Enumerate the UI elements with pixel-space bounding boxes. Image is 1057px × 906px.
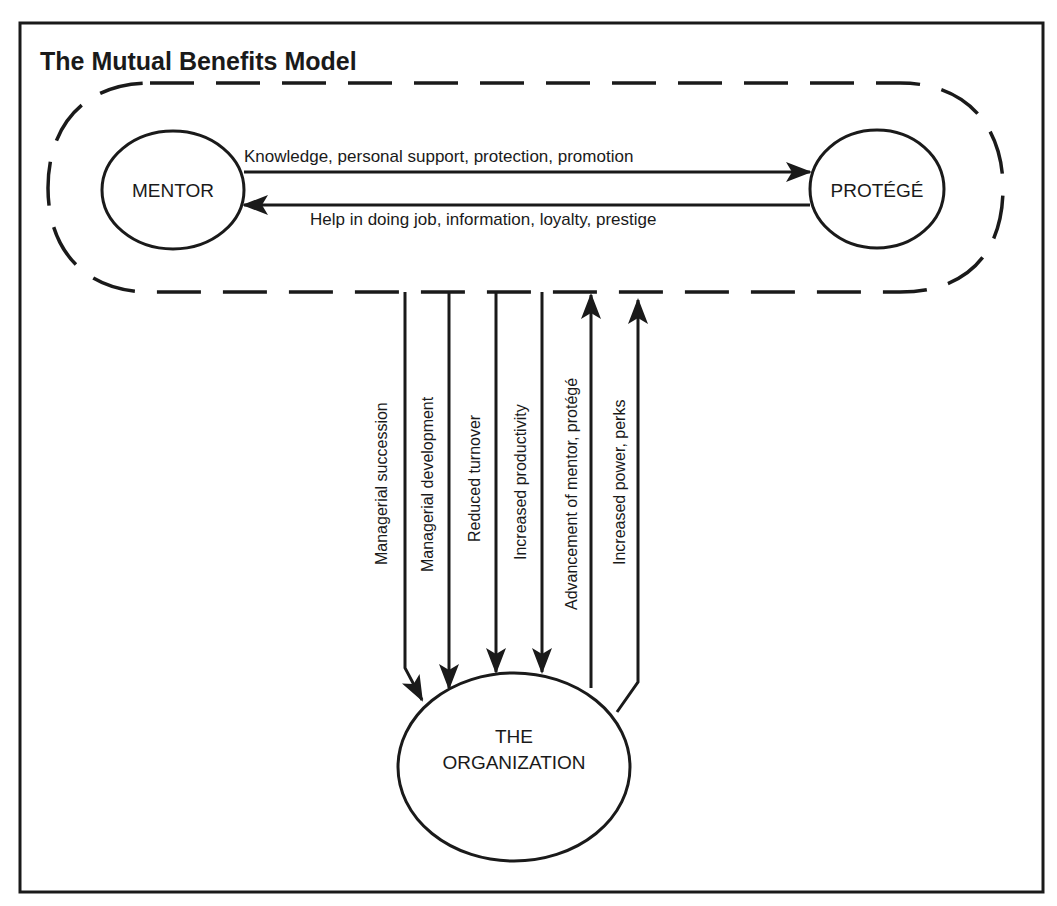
organization-label-line2: ORGANIZATION [442, 752, 585, 773]
flow-managerial-succession: Managerial succession [373, 292, 422, 700]
flow-protege-to-mentor-label: Help in doing job, information, loyalty,… [310, 210, 656, 229]
flow-protege-to-mentor: Help in doing job, information, loyalty,… [244, 205, 810, 229]
organization-label-line1: THE [495, 726, 533, 747]
flow-increased-power-label: Increased power, perks [611, 400, 628, 565]
flow-increased-productivity-label: Increased productivity [512, 404, 529, 560]
flow-managerial-succession-label: Managerial succession [373, 402, 390, 565]
flow-mentor-to-protege-label: Knowledge, personal support, protection,… [244, 147, 633, 166]
protege-node: PROTÉGÉ [810, 130, 944, 248]
flow-reduced-turnover-label: Reduced turnover [466, 414, 483, 542]
mentor-node: MENTOR [102, 131, 244, 249]
flow-managerial-development: Managerial development [419, 292, 449, 688]
flow-increased-productivity: Increased productivity [512, 292, 542, 672]
flow-advancement-label: Advancement of mentor, protégé [563, 378, 580, 610]
flow-advancement: Advancement of mentor, protégé [563, 295, 591, 688]
flow-increased-power: Increased power, perks [611, 300, 638, 712]
organization-node: THE ORGANIZATION [398, 673, 630, 861]
flow-managerial-development-label: Managerial development [419, 396, 436, 572]
flow-mentor-to-protege: Knowledge, personal support, protection,… [244, 147, 810, 172]
mutual-benefits-diagram: The Mutual Benefits Model MENTOR PROTÉGÉ… [0, 0, 1057, 906]
protege-label: PROTÉGÉ [831, 180, 924, 201]
mentor-label: MENTOR [132, 180, 214, 201]
diagram-title: The Mutual Benefits Model [40, 47, 357, 75]
flow-reduced-turnover: Reduced turnover [466, 292, 496, 672]
